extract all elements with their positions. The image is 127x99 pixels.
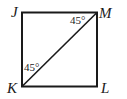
angle-label-k: 45° bbox=[24, 61, 39, 73]
vertex-label-j: J bbox=[11, 4, 19, 20]
vertex-label-l: L bbox=[100, 80, 109, 96]
diagonal-km bbox=[22, 13, 97, 87]
vertex-label-k: K bbox=[6, 80, 18, 96]
vertex-label-m: M bbox=[98, 5, 113, 21]
angle-label-m: 45° bbox=[70, 14, 85, 26]
geometry-diagram: J M K L 45° 45° bbox=[0, 0, 127, 99]
